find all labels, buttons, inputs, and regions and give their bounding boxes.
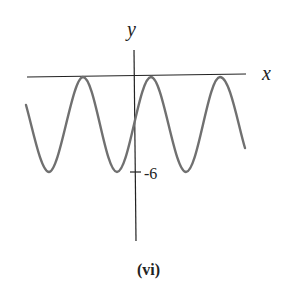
x-axis-label: x (261, 62, 271, 84)
y-axis-label: y (125, 18, 136, 41)
y-axis (134, 50, 136, 241)
graph: y x -6 (vi) (0, 0, 297, 291)
figure-caption: (vi) (137, 261, 160, 279)
x-axis (27, 74, 246, 77)
tick-label-minus-6: -6 (144, 165, 157, 182)
